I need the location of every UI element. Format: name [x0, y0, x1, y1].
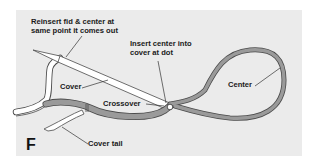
- cover-tail-label: Cover tail: [88, 139, 123, 148]
- cover-rope: [16, 58, 60, 116]
- center-label: Center: [228, 80, 252, 89]
- reinsert-line-2: same point it comes out: [31, 26, 118, 35]
- figure-letter: F: [26, 136, 36, 154]
- insert-center-label: Insert center into cover at dot: [130, 39, 192, 58]
- reinsert-line-1: Reinsert fid & center at: [31, 17, 118, 26]
- cover-tail-rope: [44, 110, 84, 131]
- insert-line-1: Insert center into: [130, 39, 192, 48]
- center-rope-loop: [170, 50, 284, 118]
- insert-line-2: cover at dot: [130, 48, 192, 57]
- insertion-dot: [167, 104, 173, 110]
- crossover-label: Crossover: [103, 99, 141, 108]
- reinsert-fid-label: Reinsert fid & center at same point it c…: [31, 17, 118, 36]
- cover-label: Cover: [60, 82, 82, 91]
